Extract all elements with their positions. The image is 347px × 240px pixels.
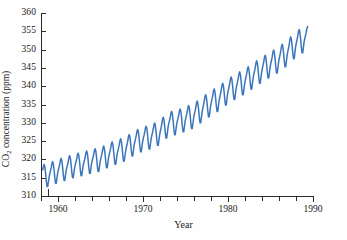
y-axis-tick-label: 360 [0,8,36,18]
x-axis-major-tick [143,196,144,202]
x-axis-tick-label: 1970 [123,204,163,215]
x-axis-major-tick [228,196,229,202]
x-axis-minor-tick [109,196,110,201]
x-axis-tick-label: 1960 [38,204,78,215]
x-axis-label-container: Year [0,219,347,230]
y-axis-tick-label: 330 [0,118,36,128]
co2-series-line [43,27,308,187]
x-axis-minor-tick [92,196,93,201]
y-axis-tick-label: 325 [0,136,36,146]
x-axis-major-tick [313,196,314,202]
x-axis-minor-tick [75,196,76,201]
y-axis-tick-label: 315 [0,173,36,183]
y-axis-tick-label: 320 [0,154,36,164]
x-axis-minor-tick [296,196,297,201]
x-axis-minor-tick [160,196,161,201]
x-axis-minor-tick [177,196,178,201]
y-axis-tick-label: 340 [0,81,36,91]
x-axis-minor-tick [126,196,127,201]
x-axis-tick-label: 1980 [208,204,248,215]
x-axis-label: Year [174,219,192,230]
co2-concentration-chart: CO2 concentration (ppm) 3103153203253303… [0,0,347,240]
co2-keeling-curve [41,13,313,196]
plot-area [41,13,313,196]
x-axis-minor-tick [245,196,246,201]
x-axis-minor-tick [211,196,212,201]
y-axis-tick-label: 355 [0,26,36,36]
x-axis-major-tick [58,196,59,202]
y-axis-tick-label: 310 [0,191,36,201]
x-axis-minor-tick [194,196,195,201]
y-axis-tick-label: 345 [0,63,36,73]
x-axis-minor-tick [262,196,263,201]
x-axis-tick-label: 1990 [293,204,333,215]
y-axis-tick-label: 335 [0,100,36,110]
y-axis-tick-label: 350 [0,45,36,55]
x-axis-minor-tick [279,196,280,201]
x-axis-minor-tick [41,196,42,201]
